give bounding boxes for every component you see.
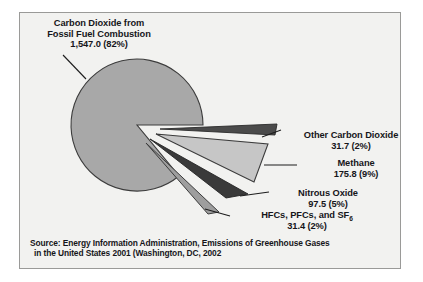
pie-label-hfcs-pfcs-sf6-text: HFCs, PFCs, and SF: [261, 210, 349, 220]
pie-label-hfcs-pfcs-sf6-line1: HFCs, PFCs, and SF6: [232, 210, 382, 221]
pie-label-co2-fossil-line2: Fossil Fuel Combustion: [26, 29, 172, 40]
pie-label-other-co2: Other Carbon Dioxide 31.7 (2%): [283, 130, 419, 151]
pie-label-hfcs-pfcs-sf6-subscript: 6: [349, 215, 353, 222]
leader-line-co2-fossil: [63, 55, 86, 79]
pie-label-nitrous-oxide-value: 97.5 (5%): [272, 199, 384, 210]
pie-label-co2-fossil: Carbon Dioxide from Fossil Fuel Combusti…: [26, 18, 172, 50]
pie-label-methane-value: 175.8 (9%): [300, 169, 412, 180]
pie-label-other-co2-value: 31.7 (2%): [283, 141, 419, 152]
pie-label-other-co2-line1: Other Carbon Dioxide: [283, 130, 419, 141]
source-note: Source: Energy Information Administratio…: [30, 238, 390, 258]
pie-slice-other-co2[interactable]: [160, 124, 277, 135]
source-note-line1: Source: Energy Information Administratio…: [30, 238, 390, 248]
pie-label-nitrous-oxide-line1: Nitrous Oxide: [272, 188, 384, 199]
source-note-line2: in the United States 2001 (Washington, D…: [30, 248, 390, 258]
pie-label-hfcs-pfcs-sf6: HFCs, PFCs, and SF6 31.4 (2%): [232, 210, 382, 231]
pie-label-hfcs-pfcs-sf6-value: 31.4 (2%): [232, 221, 382, 232]
pie-label-methane: Methane 175.8 (9%): [300, 158, 412, 179]
pie-slice-co2-fossil[interactable]: [71, 59, 203, 191]
pie-label-co2-fossil-line1: Carbon Dioxide from: [26, 18, 172, 29]
pie-label-co2-fossil-value: 1,547.0 (82%): [26, 39, 172, 50]
pie-label-nitrous-oxide: Nitrous Oxide 97.5 (5%): [272, 188, 384, 209]
pie-chart-figure: Carbon Dioxide from Fossil Fuel Combusti…: [0, 0, 423, 282]
pie-label-methane-line1: Methane: [300, 158, 412, 169]
